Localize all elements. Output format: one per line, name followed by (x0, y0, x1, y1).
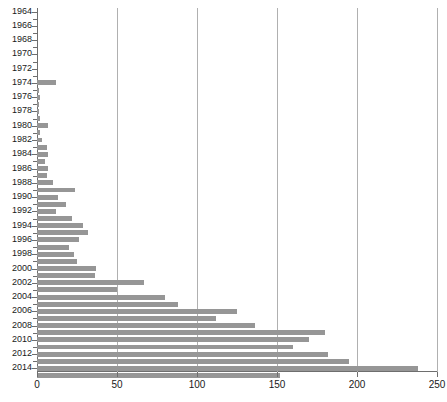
bar-1998 (37, 252, 74, 257)
y-tick-1986 (32, 169, 37, 170)
bar-2008 (37, 323, 255, 328)
y-tick-label-1964: 1964 (12, 7, 32, 16)
bar-row (37, 309, 437, 314)
y-tick-label-2014: 2014 (12, 363, 32, 372)
y-tick-2000 (32, 269, 37, 270)
bar-row (37, 23, 437, 28)
y-tick-1981 (33, 133, 37, 134)
y-tick-1995 (33, 233, 37, 234)
bar-row (37, 145, 437, 150)
y-tick-2010 (32, 340, 37, 341)
y-tick-1967 (33, 33, 37, 34)
bar-row (37, 330, 437, 335)
y-tick-1965 (33, 19, 37, 20)
y-tick-2005 (33, 304, 37, 305)
gridline-250 (437, 8, 438, 372)
bar-2003 (37, 287, 117, 292)
y-tick-label-1968: 1968 (12, 35, 32, 44)
bar-1989 (37, 188, 75, 193)
y-tick-1993 (33, 219, 37, 220)
bar-2000 (37, 266, 96, 271)
bar-1975 (37, 88, 39, 93)
bar-series (37, 8, 437, 372)
y-tick-label-1974: 1974 (12, 78, 32, 87)
y-tick-2007 (33, 318, 37, 319)
bar-row (37, 352, 437, 357)
bar-2007 (37, 316, 216, 321)
bar-1983 (37, 145, 47, 150)
bar-row (37, 345, 437, 350)
bar-row (37, 59, 437, 64)
y-tick-1990 (32, 197, 37, 198)
bar-row (37, 45, 437, 50)
y-tick-label-2000: 2000 (12, 264, 32, 273)
x-tick-100 (197, 372, 198, 377)
bar-2004 (37, 295, 165, 300)
bar-2013 (37, 359, 349, 364)
y-tick-1968 (32, 40, 37, 41)
y-tick-2013 (33, 361, 37, 362)
bar-row (37, 373, 437, 378)
y-tick-1989 (33, 190, 37, 191)
bar-row (37, 80, 437, 85)
y-tick-1994 (32, 226, 37, 227)
y-tick-2009 (33, 333, 37, 334)
y-tick-2002 (32, 283, 37, 284)
bar-1978 (37, 109, 39, 114)
bar-1979 (37, 116, 40, 121)
bar-1990 (37, 195, 58, 200)
y-tick-1974 (32, 83, 37, 84)
y-tick-2008 (32, 326, 37, 327)
bar-1987 (37, 173, 47, 178)
bar-1996 (37, 237, 79, 242)
bar-row (37, 116, 437, 121)
bar-1991 (37, 202, 66, 207)
bar-1974 (37, 80, 56, 85)
x-tick-250 (437, 372, 438, 377)
y-tick-label-1992: 1992 (12, 206, 32, 215)
y-tick-1984 (32, 154, 37, 155)
x-tick-label-150: 150 (269, 380, 286, 390)
bar-row (37, 266, 437, 271)
bar-2009 (37, 330, 325, 335)
y-tick-1987 (33, 176, 37, 177)
bar-row (37, 38, 437, 43)
bar-row (37, 16, 437, 21)
plot-area (37, 8, 437, 372)
bar-row (37, 230, 437, 235)
bar-row (37, 295, 437, 300)
bar-2001 (37, 273, 95, 278)
y-tick-1980 (32, 126, 37, 127)
bar-1995 (37, 230, 88, 235)
y-tick-1988 (32, 183, 37, 184)
y-tick-2011 (33, 347, 37, 348)
bar-1997 (37, 245, 69, 250)
x-tick-label-250: 250 (429, 380, 446, 390)
y-tick-label-2010: 2010 (12, 335, 32, 344)
y-tick-1996 (32, 240, 37, 241)
bar-1981 (37, 130, 40, 135)
bar-row (37, 223, 437, 228)
y-tick-1997 (33, 247, 37, 248)
bar-row (37, 109, 437, 114)
bar-1984 (37, 152, 48, 157)
bar-row (37, 73, 437, 78)
x-tick-label-50: 50 (111, 380, 122, 390)
bar-row (37, 88, 437, 93)
x-tick-label-200: 200 (349, 380, 366, 390)
bar-row (37, 130, 437, 135)
bar-2011 (37, 345, 293, 350)
bar-row (37, 259, 437, 264)
bar-row (37, 173, 437, 178)
y-tick-1976 (32, 97, 37, 98)
y-tick-1964 (32, 12, 37, 13)
x-tick-0 (37, 372, 38, 377)
bar-1980 (37, 123, 48, 128)
y-tick-1970 (32, 54, 37, 55)
bar-row (37, 52, 437, 57)
x-tick-150 (277, 372, 278, 377)
bar-row (37, 180, 437, 185)
y-tick-1971 (33, 62, 37, 63)
y-tick-1972 (32, 69, 37, 70)
bar-row (37, 252, 437, 257)
